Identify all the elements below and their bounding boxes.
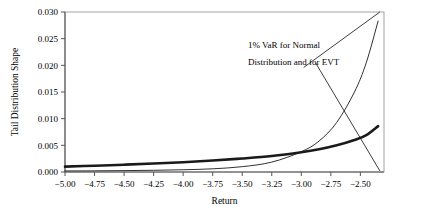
- plot-area-border: [65, 12, 384, 172]
- y-tick-label-2: 0.010: [38, 114, 59, 124]
- tail-distribution-chart: 0.0000.0050.0100.0150.0200.0250.030−5.00…: [0, 0, 422, 215]
- y-tick-label-4: 0.020: [38, 61, 59, 71]
- x-tick-label-5: −3.75: [202, 179, 223, 189]
- x-tick-label-2: −4.50: [114, 179, 135, 189]
- x-tick-label-1: −4.75: [84, 179, 105, 189]
- annotation-line-1: 1% VaR for Normal: [248, 40, 321, 50]
- y-tick-label-3: 0.015: [38, 87, 59, 97]
- y-tick-label-0: 0.000: [38, 167, 59, 177]
- x-tick-label-8: −3.00: [291, 179, 312, 189]
- x-tick-label-9: −2.75: [320, 179, 341, 189]
- y-tick-label-1: 0.005: [38, 141, 59, 151]
- annotation-line-2: Distribution and for EVT: [248, 57, 340, 67]
- x-tick-label-10: −2.50: [350, 179, 371, 189]
- y-tick-label-5: 0.025: [38, 34, 59, 44]
- x-tick-label-3: −4.25: [143, 179, 164, 189]
- y-tick-label-6: 0.030: [38, 7, 59, 17]
- y-axis-title: Tail Distribution Shape: [10, 48, 20, 137]
- x-axis-title: Return: [212, 196, 238, 206]
- x-tick-label-7: −3.25: [261, 179, 282, 189]
- x-tick-label-6: −3.50: [232, 179, 253, 189]
- x-tick-label-0: −5.00: [55, 179, 76, 189]
- chart-figure: 0.0000.0050.0100.0150.0200.0250.030−5.00…: [0, 0, 422, 215]
- x-tick-label-4: −4.00: [173, 179, 194, 189]
